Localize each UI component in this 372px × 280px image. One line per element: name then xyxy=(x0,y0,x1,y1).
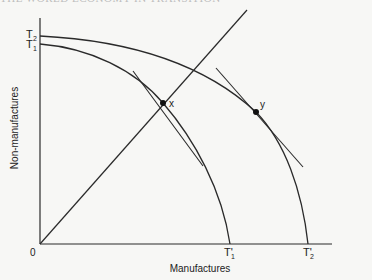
svg-text:1: 1 xyxy=(33,45,37,52)
x-axis-title: Manufactures xyxy=(170,263,231,274)
expansion-ray xyxy=(40,10,247,244)
point-y-label: y xyxy=(260,99,265,110)
origin-label: 0 xyxy=(30,247,36,258)
tangent-at-y xyxy=(216,68,303,167)
svg-text:1: 1 xyxy=(231,253,235,260)
label-t1-prime: T' 1 xyxy=(224,246,235,260)
curve-t2 xyxy=(40,36,308,244)
transformation-curve-diagram: x y T 2 T 1 T' 1 T' 2 0 Manufactures Non… xyxy=(0,0,372,280)
svg-text:T: T xyxy=(26,38,33,50)
point-y-marker xyxy=(253,109,259,115)
point-x-label: x xyxy=(169,98,174,109)
svg-text:2: 2 xyxy=(310,253,314,260)
point-x-marker xyxy=(160,100,166,106)
label-t2-prime: T' 2 xyxy=(303,246,314,260)
y-axis-title: Non-manufactures xyxy=(9,87,20,169)
svg-text:2: 2 xyxy=(33,35,37,42)
tangent-at-x xyxy=(133,71,203,166)
